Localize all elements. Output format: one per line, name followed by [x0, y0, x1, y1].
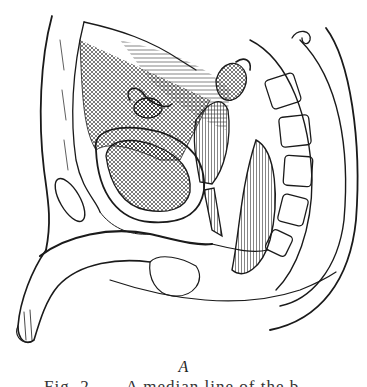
caption-text: Fig. 2——A median line of the b — [44, 378, 367, 387]
panel-label: A — [0, 358, 367, 376]
anatomical-figure — [0, 0, 367, 360]
pelvis-section-drawing — [0, 0, 367, 360]
figure-caption: Fig. 2——A median line of the b — [44, 378, 367, 387]
